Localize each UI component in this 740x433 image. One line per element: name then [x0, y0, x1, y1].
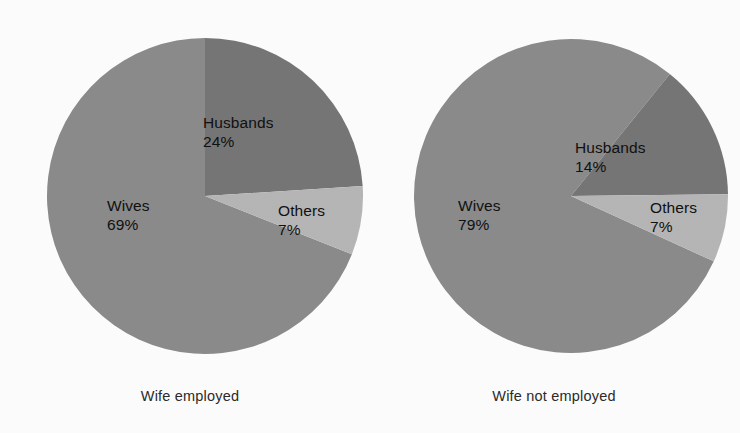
pie-chart-wife-not-employed: Husbands 14% Others 7% Wives 79% Wife no…: [368, 0, 740, 433]
pie-left-label-wives-value: 69%: [107, 215, 150, 234]
pie-left-label-wives-name: Wives: [107, 196, 150, 215]
pie-right-caption: Wife not employed: [368, 388, 740, 404]
pie-right-label-wives-value: 79%: [458, 215, 501, 234]
pie-left-caption: Wife employed: [0, 388, 380, 404]
pie-chart-figure: Husbands 24% Others 7% Wives 69% Wife em…: [0, 0, 740, 433]
pie-right-label-others-value: 7%: [650, 217, 697, 236]
pie-right-label-husbands: Husbands 14%: [575, 138, 646, 176]
pie-left-label-husbands-value: 24%: [203, 132, 274, 151]
pie-left-label-others-name: Others: [278, 201, 325, 220]
pie-left-label-husbands: Husbands 24%: [203, 113, 274, 151]
pie-right-label-others: Others 7%: [650, 198, 697, 236]
pie-right-label-wives-name: Wives: [458, 196, 501, 215]
pie-right-label-husbands-name: Husbands: [575, 138, 646, 157]
pie-left-label-wives: Wives 69%: [107, 196, 150, 234]
pie-left-label-others: Others 7%: [278, 201, 325, 239]
pie-left-label-husbands-name: Husbands: [203, 113, 274, 132]
pie-chart-wife-employed: Husbands 24% Others 7% Wives 69% Wife em…: [0, 0, 380, 433]
pie-left-label-others-value: 7%: [278, 220, 325, 239]
pie-right-label-husbands-value: 14%: [575, 157, 646, 176]
pie-right-label-others-name: Others: [650, 198, 697, 217]
pie-right-label-wives: Wives 79%: [458, 196, 501, 234]
